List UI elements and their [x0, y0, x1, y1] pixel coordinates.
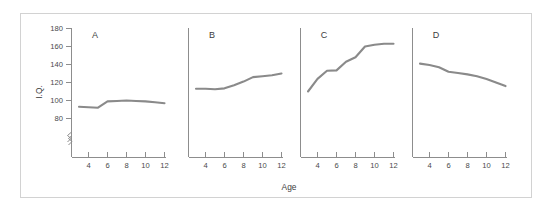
panel-a-x-label-6: 6	[105, 161, 109, 170]
panel-d: 4 6 8 10 12 D	[413, 28, 510, 170]
panel-a-letter: A	[92, 30, 98, 40]
panel-c-x-label-10: 10	[370, 161, 378, 170]
y-tick-label-100: 100	[50, 96, 63, 105]
y-axis-group: 180 160 140 120 100 80 I.Q.	[34, 24, 72, 157]
y-tick-label-180: 180	[50, 24, 63, 33]
y-axis-title: I.Q.	[34, 85, 44, 99]
panel-d-x-label-6: 6	[446, 161, 450, 170]
panel-b-x-label-8: 8	[241, 161, 245, 170]
x-axis-title: Age	[282, 182, 297, 192]
panel-b-letter: B	[209, 30, 215, 40]
panel-c: 4 6 8 10 12 C	[301, 28, 398, 170]
panel-a-x-label-8: 8	[124, 161, 128, 170]
panel-b-x-label-10: 10	[258, 161, 266, 170]
y-tick-label-160: 160	[50, 42, 63, 51]
panel-c-x-label-6: 6	[334, 161, 338, 170]
y-tick-label-120: 120	[50, 78, 63, 87]
panel-b-x-label-6: 6	[222, 161, 226, 170]
panel-d-x-label-8: 8	[465, 161, 469, 170]
figure-root: 180 160 140 120 100 80 I.Q. 4 6 8 10 12 …	[0, 0, 552, 218]
panel-a-x-label-10: 10	[141, 161, 149, 170]
panel-d-x-label-10: 10	[482, 161, 490, 170]
panel-c-x-label-4: 4	[315, 161, 319, 170]
panel-c-letter: C	[321, 30, 328, 40]
panel-b-x-label-4: 4	[203, 161, 207, 170]
panel-a-x-label-12: 12	[160, 161, 168, 170]
y-tick-label-80: 80	[55, 114, 63, 123]
panel-b: 4 6 8 10 12 B	[189, 28, 286, 170]
panel-c-series-line	[308, 44, 394, 92]
panel-a-series-line	[79, 101, 165, 108]
panel-b-series-line	[196, 74, 282, 90]
panel-d-letter: D	[433, 30, 440, 40]
panel-b-x-label-12: 12	[277, 161, 285, 170]
panel-c-x-label-8: 8	[353, 161, 357, 170]
panel-a-x-label-4: 4	[86, 161, 90, 170]
panel-c-x-label-12: 12	[389, 161, 397, 170]
y-tick-label-140: 140	[50, 60, 63, 69]
panel-a: 4 6 8 10 12 A	[72, 30, 169, 170]
panel-d-x-label-4: 4	[427, 161, 431, 170]
multi-panel-line-chart: 180 160 140 120 100 80 I.Q. 4 6 8 10 12 …	[0, 0, 552, 218]
panel-d-x-label-12: 12	[501, 161, 509, 170]
panel-d-series-line	[420, 64, 506, 87]
